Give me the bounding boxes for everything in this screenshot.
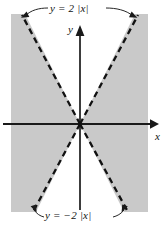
- x-axis-label: x: [155, 131, 160, 142]
- absolute-value-region-figure: y = 2 |x| y = −2 |x| y x: [0, 0, 168, 235]
- curve-label-upper: y = 2 |x|: [50, 3, 89, 14]
- x-axis-arrowhead: [150, 119, 159, 129]
- curve-label-lower: y = −2 |x|: [45, 210, 91, 221]
- y-axis-label: y: [68, 24, 73, 35]
- figure-canvas: [0, 0, 168, 235]
